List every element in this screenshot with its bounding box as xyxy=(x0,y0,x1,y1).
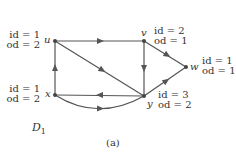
graph-name: D1 xyxy=(32,121,46,136)
degree-label-x: id = 1 od = 2 xyxy=(6,84,40,104)
node-y xyxy=(142,94,146,98)
arrow-x-y-curved-icon xyxy=(97,106,104,112)
node-label-u: u xyxy=(44,35,50,45)
node-label-x: x xyxy=(45,89,51,99)
arrow-v-w-icon xyxy=(163,51,172,60)
node-x xyxy=(53,93,57,97)
arrow-u-y-icon xyxy=(98,66,107,75)
arrow-y-x-icon xyxy=(96,92,103,98)
degree-label-v: id = 2 od = 1 xyxy=(154,26,188,46)
node-label-y: y xyxy=(147,99,153,109)
degree-label-u: id = 1 od = 2 xyxy=(6,30,40,50)
arrow-u-v-icon xyxy=(97,38,104,44)
arrow-v-y-icon xyxy=(141,65,147,72)
node-u xyxy=(53,39,57,43)
graph-name-subscript: 1 xyxy=(41,127,46,136)
degree-label-y: id = 3 od = 2 xyxy=(158,90,192,110)
node-w xyxy=(184,65,188,69)
degree-label-w: id = 1 od = 1 xyxy=(202,56,236,76)
out-degree-y: od = 2 xyxy=(158,100,192,110)
out-degree-v: od = 1 xyxy=(154,36,188,46)
out-degree-x: od = 2 xyxy=(6,94,40,104)
out-degree-w: od = 1 xyxy=(202,66,236,76)
arrow-x-u-icon xyxy=(52,64,58,71)
node-label-w: w xyxy=(190,62,199,72)
node-label-v: v xyxy=(141,28,147,38)
out-degree-u: od = 2 xyxy=(6,40,40,50)
node-v xyxy=(142,39,146,43)
figure-caption: (a) xyxy=(106,137,120,148)
graph-name-letter: D xyxy=(32,121,41,134)
